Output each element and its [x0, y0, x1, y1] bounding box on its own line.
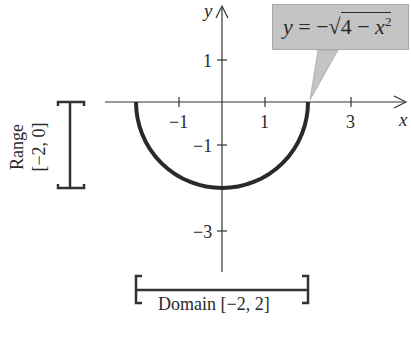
range-label-title: Range — [6, 107, 28, 187]
y-axis — [216, 6, 228, 272]
figure: y x −1 1 3 1 −1 −3 y = −√4 − x2 Range [−… — [0, 0, 411, 339]
range-bracket — [58, 102, 84, 188]
domain-label: Domain [−2, 2] — [158, 294, 270, 315]
plot-canvas: y x −1 1 3 1 −1 −3 — [0, 0, 411, 339]
y-tick-label: −1 — [193, 136, 212, 156]
y-tick-label: 1 — [203, 51, 212, 71]
radicand-const: 4 — [341, 14, 352, 39]
x-tick-label: 3 — [346, 112, 355, 132]
equation-text: y = −√4 − x2 — [283, 14, 391, 40]
radicand-minus: − — [357, 14, 369, 39]
range-label-interval: [−2, 0] — [28, 107, 50, 187]
radicand-var: x — [375, 14, 385, 39]
radicand-exponent: 2 — [385, 14, 392, 29]
callout-pointer — [310, 50, 338, 100]
eq-lhs: y — [283, 14, 293, 39]
range-label: Range [−2, 0] — [6, 107, 50, 187]
equation-callout: y = −√4 − x2 — [272, 4, 409, 50]
radical-icon: √ — [329, 14, 341, 39]
eq-equals: = — [298, 14, 310, 39]
y-axis-label: y — [202, 0, 213, 21]
x-axis — [105, 96, 406, 108]
x-axis-label: x — [398, 109, 408, 130]
x-tick-label: 1 — [260, 112, 269, 132]
radicand: 4 − x2 — [341, 12, 392, 39]
eq-minus: − — [316, 14, 328, 39]
y-tick-label: −3 — [193, 222, 212, 242]
x-tick-label: −1 — [169, 112, 188, 132]
